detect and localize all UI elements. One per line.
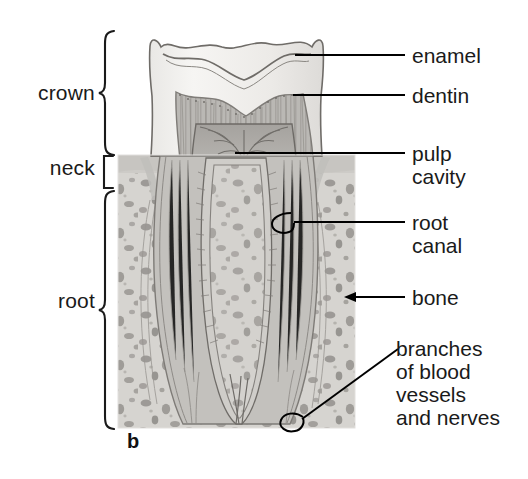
bone-arrowhead: [344, 292, 356, 302]
callout-line: branches: [396, 337, 500, 360]
callout-label-enamel: enamel: [412, 44, 481, 67]
region-label-crown: crown: [38, 81, 95, 105]
callout-line: vessels: [396, 383, 500, 406]
callout-line: enamel: [412, 44, 481, 67]
figure-letter: b: [127, 430, 139, 453]
callout-line: cavity: [412, 165, 466, 188]
leader-root-canal-hook: [272, 213, 294, 233]
callout-line: dentin: [412, 84, 469, 107]
root-brace: [96, 188, 122, 434]
callout-line: of blood: [396, 360, 500, 383]
callout-label-bone: bone: [412, 286, 459, 309]
callout-label-branches: branches of blood vessels and nerves: [396, 337, 500, 429]
callout-line: root: [412, 211, 462, 234]
neck-bracket: [96, 153, 122, 191]
crown-brace: [96, 28, 122, 158]
callout-label-root-canal: root canal: [412, 211, 462, 257]
callout-line: canal: [412, 234, 462, 257]
leader-branches: [302, 349, 398, 419]
leader-branches-hook: [280, 413, 303, 431]
callout-line: and nerves: [396, 406, 500, 429]
callout-label-pulp-cavity: pulp cavity: [412, 142, 466, 188]
callout-label-dentin: dentin: [412, 84, 469, 107]
region-label-neck: neck: [50, 156, 95, 180]
callout-line: pulp: [412, 142, 466, 165]
figure-canvas: crown neck root enamel dentin pulp cavit…: [0, 0, 528, 479]
region-label-root: root: [58, 289, 95, 313]
callout-line: bone: [412, 286, 459, 309]
